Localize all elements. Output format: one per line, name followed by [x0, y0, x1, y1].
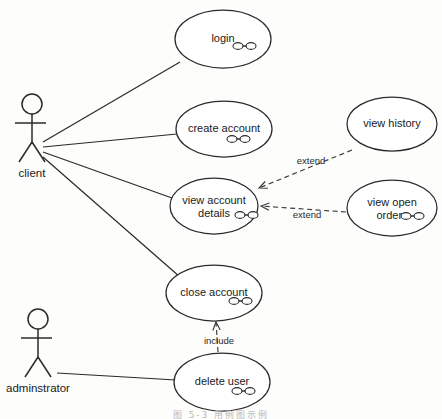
- dependency-extend-view-open-orders: extend: [261, 203, 346, 220]
- actor-label: client: [19, 167, 47, 179]
- dependency-label: include: [204, 335, 234, 346]
- association-client-create: [43, 134, 177, 147]
- actor-administrator[interactable]: adminstrator: [6, 309, 70, 394]
- actor-label: adminstrator: [6, 382, 70, 394]
- use-case-label-line2: details: [198, 207, 230, 219]
- actor-nodes-group: clientadminstrator: [6, 94, 70, 394]
- actor-head: [28, 309, 48, 329]
- use-case-login[interactable]: login: [175, 10, 271, 68]
- association-lines-group: [43, 62, 180, 380]
- use-case-view_open[interactable]: view openorders: [347, 180, 437, 236]
- actor-head: [22, 94, 42, 114]
- actor-leg-left: [19, 142, 32, 162]
- uml-diagram-svg: extendextendinclude logincreate accountv…: [0, 0, 442, 419]
- use-case-label: close account: [180, 286, 247, 298]
- actor-client[interactable]: client: [15, 94, 46, 179]
- use-case-label: view history: [363, 117, 421, 129]
- use-case-label: create account: [188, 122, 260, 134]
- association-client-view-account: [43, 152, 172, 198]
- association-admin-delete-user: [57, 373, 176, 380]
- use-case-label: delete user: [195, 375, 250, 387]
- use-case-label: view open: [367, 196, 417, 208]
- actor-leg-right: [38, 357, 51, 377]
- use-case-ellipse[interactable]: [170, 178, 258, 234]
- use-case-ellipse[interactable]: [347, 180, 437, 236]
- dependency-include-delete-user: include: [204, 322, 234, 352]
- actor-leg-left: [25, 357, 38, 377]
- use-case-label: view account: [182, 194, 246, 206]
- dependency-label: extend: [297, 155, 326, 166]
- association-client-close-account: [43, 157, 180, 277]
- use-case-diagram-canvas: extendextendinclude logincreate accountv…: [0, 0, 442, 419]
- dependency-label: extend: [293, 209, 322, 220]
- use-case-view_account[interactable]: view accountdetails: [170, 178, 258, 234]
- figure-caption: 图 5-3 用例图示例: [0, 408, 442, 419]
- use-case-create_account[interactable]: create account: [176, 101, 272, 157]
- dependency-extend-view-history: extend: [259, 150, 352, 188]
- association-client-login: [43, 62, 180, 142]
- use-case-view_history[interactable]: view history: [347, 97, 437, 151]
- use-case-label: login: [211, 32, 234, 44]
- use-case-close_account[interactable]: close account: [166, 265, 262, 321]
- use-case-delete_user[interactable]: delete user: [174, 353, 270, 411]
- dependency-arrowhead: [259, 181, 268, 188]
